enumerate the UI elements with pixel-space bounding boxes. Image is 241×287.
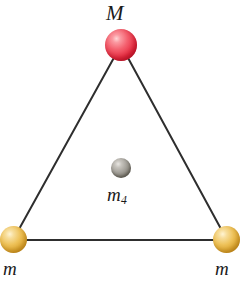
mass-label-M: M xyxy=(106,3,124,24)
mass-label-m-left: m xyxy=(3,259,17,278)
mass-sphere-m-left xyxy=(0,226,27,253)
mass-sphere-M xyxy=(105,29,137,61)
mass-label-m4-base: m xyxy=(107,184,121,205)
mass-label-m4-subscript: 4 xyxy=(121,194,127,207)
mass-sphere-m4 xyxy=(111,158,131,178)
physics-diagram-figure: M m4 m m xyxy=(0,0,241,287)
mass-label-m-right: m xyxy=(215,259,229,278)
edge-right-side xyxy=(121,45,227,240)
mass-sphere-m-right xyxy=(213,226,240,253)
edge-left-side xyxy=(13,45,121,240)
mass-label-m4: m4 xyxy=(107,185,127,207)
